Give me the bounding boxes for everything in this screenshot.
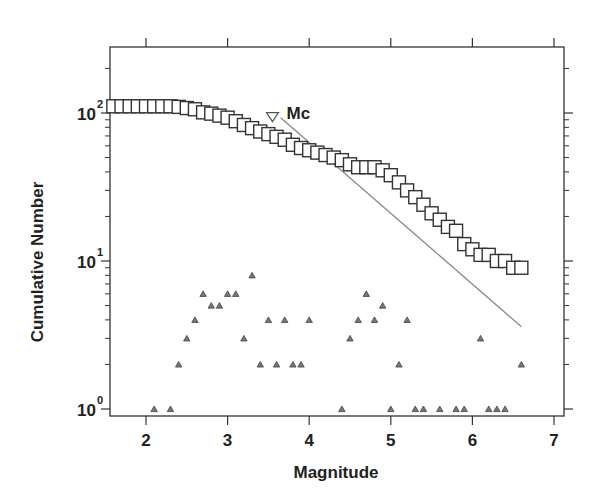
triangle-marker <box>518 361 524 367</box>
x-axis-label: Magnitude <box>294 463 379 482</box>
triangle-marker <box>477 335 483 341</box>
triangle-marker <box>151 406 157 412</box>
y-tick-label: 10 <box>77 401 96 420</box>
mc-marker-icon <box>266 113 278 122</box>
square-marker <box>450 224 463 237</box>
triangle-marker <box>502 406 508 412</box>
y-axis-label: Cumulative Number <box>28 181 47 342</box>
y-tick-exponent: 2 <box>97 98 103 110</box>
triangle-marker <box>355 317 361 323</box>
triangle-marker <box>396 361 402 367</box>
mc-label: Mc <box>286 104 310 123</box>
x-tick-label: 3 <box>223 431 232 450</box>
x-tick-label: 2 <box>141 431 150 450</box>
triangle-marker <box>437 406 443 412</box>
triangle-marker <box>363 291 369 297</box>
noncumulative-markers <box>151 272 525 411</box>
triangle-marker <box>192 317 198 323</box>
triangle-marker <box>412 406 418 412</box>
square-marker <box>515 261 528 274</box>
triangle-marker <box>200 291 206 297</box>
triangle-marker <box>167 406 173 412</box>
triangle-marker <box>420 406 426 412</box>
triangle-marker <box>208 303 214 309</box>
mc-annotation: Mc <box>266 104 310 123</box>
triangle-marker <box>306 317 312 323</box>
triangle-marker <box>371 317 377 323</box>
triangle-marker <box>494 406 500 412</box>
triangle-marker <box>388 406 394 412</box>
cumulative-markers <box>107 100 528 274</box>
triangle-marker <box>241 335 247 341</box>
triangle-marker <box>184 335 190 341</box>
triangle-marker <box>233 291 239 297</box>
triangle-marker <box>216 303 222 309</box>
triangle-marker <box>453 406 459 412</box>
triangle-marker <box>404 317 410 323</box>
x-tick-label: 7 <box>549 431 558 450</box>
triangle-marker <box>265 317 271 323</box>
triangle-marker <box>249 272 255 278</box>
x-tick-label: 4 <box>304 431 314 450</box>
frequency-magnitude-chart: 234567100101102 Mc Magnitude Cumulative … <box>0 0 599 498</box>
y-tick-label: 10 <box>77 105 96 124</box>
triangle-marker <box>298 361 304 367</box>
triangle-marker <box>257 361 263 367</box>
triangle-marker <box>273 361 279 367</box>
triangle-marker <box>379 303 385 309</box>
triangle-marker <box>461 406 467 412</box>
triangle-marker <box>486 406 492 412</box>
triangle-marker <box>224 291 230 297</box>
triangle-marker <box>347 335 353 341</box>
x-tick-label: 6 <box>468 431 477 450</box>
triangle-marker <box>290 361 296 367</box>
y-tick-exponent: 0 <box>97 394 103 406</box>
triangle-marker <box>282 317 288 323</box>
triangle-marker <box>175 361 181 367</box>
triangle-marker <box>339 406 345 412</box>
y-tick-exponent: 1 <box>97 246 103 258</box>
y-tick-label: 10 <box>77 253 96 272</box>
x-tick-label: 5 <box>386 431 395 450</box>
